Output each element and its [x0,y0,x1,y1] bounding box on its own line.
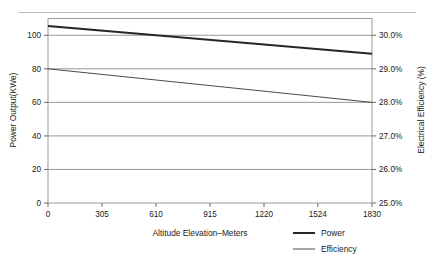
y-axis-right-ticks: 25.0%26.0%27.0%28.0%29.0%30.0% [372,31,402,208]
chart-figure: 020406080100 25.0%26.0%27.0%28.0%29.0%30… [0,0,433,263]
plot-frame [48,19,372,204]
y-tick-label-right: 26.0% [379,165,402,174]
chart-canvas: 020406080100 25.0%26.0%27.0%28.0%29.0%30… [0,0,433,263]
y-tick-label-right: 25.0% [379,199,402,208]
x-tick-label: 915 [203,210,217,219]
y-tick-label-left: 0 [36,199,41,208]
y-tick-label-left: 80 [32,65,42,74]
series-line-efficiency [48,69,372,103]
series-layer [48,26,372,102]
gridline-group [48,35,372,169]
y-axis-left-ticks: 020406080100 [27,31,48,208]
y-tick-label-left: 20 [32,165,42,174]
series-line-power [48,26,372,54]
x-tick-label: 1830 [363,210,382,219]
y-tick-label-left: 60 [32,98,42,107]
y-axis-left-title: Power Output(KWe) [8,72,18,147]
chart-legend: PowerEfficiency [293,228,358,254]
y-tick-label-left: 100 [27,31,41,40]
x-tick-label: 0 [46,210,51,219]
y-tick-label-right: 27.0% [379,132,402,141]
x-tick-label: 610 [149,210,163,219]
legend-label-power: Power [321,228,345,238]
x-axis-title: Altitude Elevation–Meters [153,228,248,238]
y-tick-label-right: 30.0% [379,31,402,40]
legend-label-efficiency: Efficiency [321,244,358,254]
y-tick-label-right: 29.0% [379,65,402,74]
y-tick-label-left: 40 [32,132,42,141]
y-axis-right-title: Electrical Efficiency (%) [416,66,426,154]
x-tick-label: 1524 [309,210,328,219]
x-tick-label: 1220 [255,210,274,219]
y-tick-label-right: 28.0% [379,98,402,107]
x-tick-label: 305 [95,210,109,219]
x-axis-ticks: 0305610915122015241830 [46,203,382,219]
